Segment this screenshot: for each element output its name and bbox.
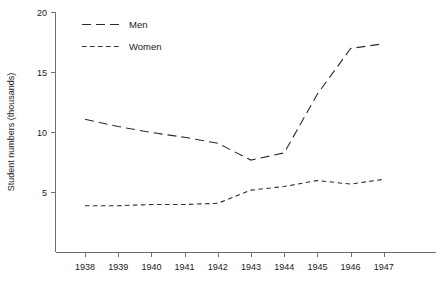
legend-label-men: Men <box>129 19 147 30</box>
x-tick-label: 1944 <box>274 262 294 272</box>
x-tick-label: 1945 <box>307 262 327 272</box>
chart-container: 20 15 10 5 Student numbers (thousands) 1… <box>0 0 441 294</box>
series-line-women <box>85 179 384 205</box>
y-tick-label: 10 <box>37 128 47 138</box>
legend-label-women: Women <box>129 41 162 52</box>
x-tick-label: 1947 <box>374 262 394 272</box>
x-tick-label: 1941 <box>175 262 195 272</box>
y-axis-title: Student numbers (thousands) <box>6 73 16 192</box>
x-axis-ticks <box>86 253 385 258</box>
y-axis-tick-labels: 20 15 10 5 <box>37 8 47 198</box>
y-tick-label: 5 <box>42 188 47 198</box>
x-tick-label: 1938 <box>75 262 95 272</box>
y-axis-ticks <box>51 13 56 193</box>
y-tick-label: 20 <box>37 8 47 18</box>
series-line-men <box>85 44 384 160</box>
x-tick-label: 1940 <box>141 262 161 272</box>
caption-text <box>30 283 210 292</box>
x-tick-label: 1942 <box>208 262 228 272</box>
x-axis-tick-labels: 1938193919401941194219431944194519461947 <box>75 262 394 272</box>
y-tick-label: 15 <box>37 68 47 78</box>
line-chart: 20 15 10 5 Student numbers (thousands) 1… <box>0 0 441 294</box>
x-tick-label: 1943 <box>241 262 261 272</box>
legend: Men Women <box>82 19 162 52</box>
x-tick-label: 1946 <box>341 262 361 272</box>
legend-item-women: Women <box>82 41 162 52</box>
legend-item-men: Men <box>82 19 147 30</box>
x-tick-label: 1939 <box>108 262 128 272</box>
